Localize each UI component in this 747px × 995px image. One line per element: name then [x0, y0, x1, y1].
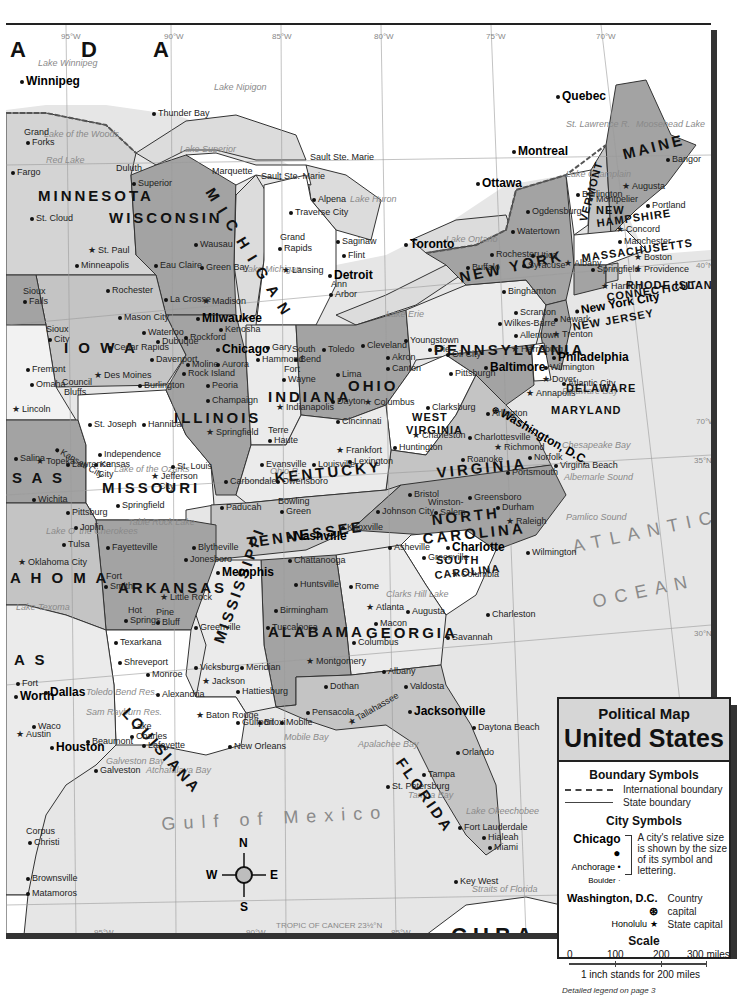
city-dot-icon	[66, 463, 70, 467]
city-dot-icon	[124, 619, 128, 623]
legend-country-capital: Washington, D.C. ⊛	[563, 892, 658, 918]
scale-heading: Scale	[559, 934, 729, 948]
city-label: Salem	[434, 508, 466, 517]
city-dot-icon	[98, 453, 102, 457]
city-label: Peoria	[206, 381, 238, 390]
compass-s: S	[240, 901, 248, 913]
city-dot-icon	[486, 613, 490, 617]
legend-city-large: Chicago ●	[563, 832, 621, 860]
city-label: ★St. Paul	[88, 246, 130, 255]
city-dot-icon	[426, 406, 430, 410]
city-label: Portland	[646, 201, 686, 210]
star-icon: ★	[564, 258, 572, 268]
city-label: Roanoke	[461, 455, 503, 464]
city-label: Lake	[132, 722, 152, 731]
city-label: Rock Island	[182, 369, 235, 378]
city-label: Shreveport	[118, 658, 168, 667]
city-label: Grand	[280, 233, 305, 242]
city-label: Orlando	[456, 748, 494, 757]
water-label: Lake Erie	[386, 310, 424, 319]
city-label: City	[48, 335, 70, 344]
star-icon: ★	[506, 516, 514, 526]
city-dot-icon	[528, 456, 532, 460]
city-dot-icon	[200, 266, 204, 270]
city-dot-icon	[498, 322, 502, 326]
graticule-label: 70°W	[696, 418, 711, 426]
city-dot-icon	[194, 666, 198, 670]
city-label: Traverse City	[289, 208, 348, 217]
city-label: Gary	[266, 343, 292, 352]
star-icon: ★	[276, 402, 284, 412]
city-label: Sault Ste. Marie	[310, 153, 374, 162]
city-dot-icon	[26, 368, 30, 372]
city-label: Durham	[496, 503, 534, 512]
city-dot-icon	[206, 384, 210, 388]
city-label: Albany	[382, 667, 416, 676]
city-dot-icon	[224, 480, 228, 484]
city-dot-icon	[490, 253, 494, 257]
compass-n: N	[239, 837, 248, 849]
city-dot-icon	[666, 158, 670, 162]
legend-header: Political Map United States	[559, 699, 729, 762]
state-label: A S	[14, 652, 47, 667]
city-dot-icon	[16, 682, 20, 686]
city-label: Ogdensburg	[526, 207, 582, 216]
city-dot-icon	[240, 666, 244, 670]
city-dot-icon	[26, 141, 30, 145]
city-dot-icon	[220, 506, 224, 510]
city-dot-icon	[361, 344, 365, 348]
city-label: Wausau	[194, 240, 233, 249]
city-label: Key West	[454, 877, 498, 886]
city-dot-icon	[336, 240, 340, 244]
city-dot-icon	[104, 585, 108, 589]
graticule-label: TROPIC OF CANCER 23½°N	[276, 922, 382, 930]
city-dot-icon	[466, 266, 470, 270]
city-label: Omaha	[30, 380, 66, 389]
city-label: Wichita	[32, 495, 68, 504]
water-label: Albemarle Sound	[564, 473, 633, 482]
scale-note: 1 inch stands for 200 miles	[581, 970, 700, 980]
city-label: Duluth	[116, 164, 142, 173]
city-label: Terre	[268, 426, 289, 435]
star-icon: ★	[36, 456, 44, 466]
star-icon: ★	[526, 388, 534, 398]
water-label: St. Lawrence R.	[566, 120, 630, 129]
city-label: Wilkes-Barre	[498, 319, 556, 328]
city-label: ★Concord	[616, 225, 660, 234]
city-label: Aurora	[216, 360, 249, 369]
city-dot-icon	[446, 353, 450, 357]
city-dot-icon	[386, 356, 390, 360]
city-label: Scranton	[514, 308, 556, 317]
graticule-label: 30°N	[694, 630, 711, 638]
city-label: Lawrence	[66, 460, 111, 469]
city-label: Macon	[374, 619, 407, 628]
water-label: Lake of the Woods	[44, 130, 119, 139]
city-label: Cedar Rapids	[108, 343, 169, 352]
city-label: Hialeah	[482, 833, 519, 842]
city-label: Memphis	[216, 566, 274, 578]
city-dot-icon	[260, 463, 264, 467]
star-icon: ★	[622, 181, 630, 191]
city-dot-icon	[62, 543, 66, 547]
city-label: Quebec	[556, 90, 606, 102]
legend-footer: Detailed legend on page 3	[562, 986, 729, 995]
city-label: Fayetteville	[106, 543, 158, 552]
city-label: Bluffs	[64, 388, 86, 397]
legend-state-capital: Honolulu ★	[563, 918, 658, 931]
city-dot-icon	[88, 423, 92, 427]
star-icon: ★	[366, 602, 374, 612]
city-label: Miami	[488, 843, 518, 852]
city-dot-icon	[544, 366, 548, 370]
legend-city-sizes: Chicago ● Anchorage • Boulder · A city's…	[563, 832, 729, 888]
city-dot-icon	[514, 334, 518, 338]
city-dot-icon	[376, 510, 380, 514]
city-label: ★Frankfort	[336, 446, 382, 455]
city-dot-icon	[328, 274, 332, 278]
city-label: Rome	[349, 582, 379, 591]
city-label: Fremont	[26, 365, 66, 374]
city-label: Thunder Bay	[152, 109, 210, 118]
star-icon: ★	[616, 224, 624, 234]
city-dot-icon	[118, 316, 122, 320]
star-icon: ★	[336, 445, 344, 455]
city-dot-icon	[288, 559, 292, 563]
